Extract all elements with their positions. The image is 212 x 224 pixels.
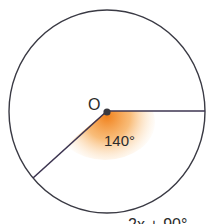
bottom-caption: 2x + 90° (128, 216, 187, 224)
angle-label: 140° (104, 132, 135, 149)
circle-diagram: O 140° 2x + 90° (0, 0, 212, 224)
center-label: O (88, 96, 100, 113)
center-point (103, 108, 110, 115)
